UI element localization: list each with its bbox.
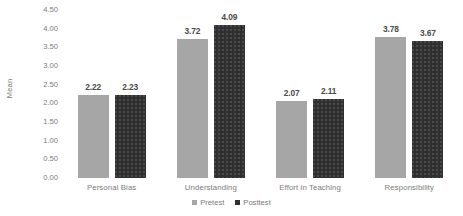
y-tick-label: 0.50 [24,155,58,163]
bar-value-label: 2.07 [276,88,307,98]
bar-value-label: 2.11 [313,86,344,96]
bar-group: 3.783.67Responsibility [360,10,459,178]
bar-pretest[interactable] [375,37,406,178]
y-tick-label: 4.00 [24,25,58,33]
legend-swatch-icon [235,200,240,205]
category-label: Understanding [161,183,260,192]
bar-posttest[interactable] [313,99,344,178]
bar-value-label: 2.23 [115,82,146,92]
y-tick-label: 1.00 [24,137,58,145]
legend-swatch-icon [192,200,197,205]
bar-value-label: 3.72 [177,26,208,36]
bar-pretest[interactable] [78,95,109,178]
bar-pretest[interactable] [177,39,208,178]
bar-group-bars: 3.724.09 [161,10,260,178]
y-tick-label: 1.50 [24,118,58,126]
bar-posttest[interactable] [214,25,245,178]
legend-label: Pretest [200,198,224,207]
category-label: Responsibility [360,183,459,192]
y-tick-label: 3.00 [24,62,58,70]
legend-item-pretest[interactable]: Pretest [192,198,224,207]
bar-value-label: 4.09 [214,12,245,22]
bar-posttest[interactable] [115,95,146,178]
legend-item-posttest[interactable]: Posttest [235,198,270,207]
bar-group-bars: 2.072.11 [261,10,360,178]
y-tick-label: 0.00 [24,174,58,182]
category-label: Personal Bias [62,183,161,192]
y-tick-label: 4.50 [24,6,58,14]
y-tick-label: 3.50 [24,43,58,51]
category-label: Effort in Teaching [261,183,360,192]
bar-value-label: 3.67 [412,28,443,38]
legend-label: Posttest [243,198,270,207]
chart-legend: PretestPosttest [0,198,463,207]
bar-group-bars: 2.222.23 [62,10,161,178]
bar-chart: Mean 4.504.003.503.002.502.001.501.000.5… [0,0,463,216]
plot-area: 2.222.23Personal Bias3.724.09Understandi… [62,10,459,178]
y-tick-label: 2.00 [24,99,58,107]
bar-group-bars: 3.783.67 [360,10,459,178]
y-axis-title: Mean [5,66,14,112]
bar-posttest[interactable] [412,41,443,178]
y-tick-label: 2.50 [24,81,58,89]
bar-group: 2.222.23Personal Bias [62,10,161,178]
y-axis-tick-labels: 4.504.003.503.002.502.001.501.000.500.00 [24,0,58,216]
bar-group: 2.072.11Effort in Teaching [261,10,360,178]
bar-value-label: 2.22 [78,82,109,92]
bar-pretest[interactable] [276,101,307,178]
bar-value-label: 3.78 [375,24,406,34]
bar-group: 3.724.09Understanding [161,10,260,178]
